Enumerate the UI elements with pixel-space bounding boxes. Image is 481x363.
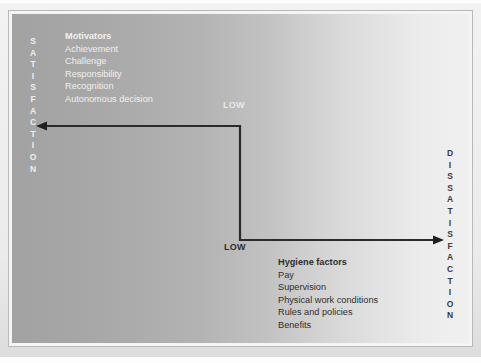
- step-curve: [0, 0, 481, 363]
- arrow-head-right-icon: [433, 236, 444, 245]
- low-label-bottom: LOW: [224, 242, 246, 252]
- herzberg-two-factor-figure: TWO FACTOR THEORY OF MOTIVATION BY FREDE…: [0, 0, 481, 363]
- step-polyline: [44, 126, 436, 240]
- low-label-top: LOW: [223, 100, 245, 110]
- arrow-head-left-icon: [36, 122, 47, 131]
